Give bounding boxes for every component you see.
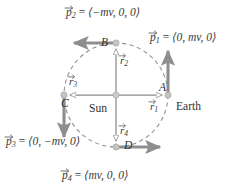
momentum-components-p2: ⟨−mv, 0, 0⟩: [88, 6, 140, 18]
momentum-label-p1: p1 = ⟨0, mv, 0⟩: [150, 32, 217, 45]
momentum-label-p3: p3 = ⟨0, −mv, 0⟩: [6, 136, 80, 149]
vector-symbol-r3: r: [69, 76, 73, 87]
vector-symbol-r4: r: [120, 125, 124, 136]
orbit-canvas: [0, 0, 232, 190]
momentum-symbol-p3: p: [6, 135, 12, 147]
radius-label-r4: r4: [120, 125, 128, 138]
node-dot-center-sun: [113, 92, 119, 98]
momentum-components-p3: ⟨0, −mv, 0⟩: [28, 135, 80, 147]
radius-subscript-r4: 4: [124, 129, 128, 138]
vector-symbol-p4: p: [62, 170, 68, 182]
node-dot-b: [113, 40, 119, 46]
radius-subscript-r1: 1: [154, 105, 158, 114]
radius-label-r1: r1: [150, 101, 158, 114]
momentum-components-p4: ⟨mv, 0, 0⟩: [84, 169, 129, 181]
vector-symbol-r1: r: [150, 101, 154, 112]
node-dot-d: [113, 144, 119, 150]
momentum-symbol-p4: p: [62, 169, 68, 181]
momentum-symbol-p2: p: [66, 6, 72, 18]
radius-label-r2: r2: [120, 55, 128, 68]
radius-symbol-r2: r: [120, 54, 124, 66]
point-label-d: D: [124, 140, 132, 152]
vector-symbol-p2: p: [66, 7, 72, 19]
radius-subscript-r2: 2: [124, 59, 128, 68]
radius-subscript-r3: 3: [73, 80, 77, 89]
momentum-symbol-p1: p: [150, 31, 156, 43]
earth-label: Earth: [176, 101, 201, 113]
radius-symbol-r1: r: [150, 100, 154, 112]
vector-symbol-r2: r: [120, 55, 124, 66]
radius-label-r3: r3: [69, 76, 77, 89]
sun-label: Sun: [89, 103, 107, 115]
momentum-label-p2: p2 = ⟨−mv, 0, 0⟩: [66, 7, 140, 20]
momentum-label-p4: p4 = ⟨mv, 0, 0⟩: [62, 170, 129, 183]
vector-symbol-p1: p: [150, 32, 156, 44]
point-label-a: A: [159, 82, 166, 94]
orbit-diagram: p2 = ⟨−mv, 0, 0⟩ p1 = ⟨0, mv, 0⟩ p3 = ⟨0…: [0, 0, 232, 190]
momentum-components-p1: ⟨0, mv, 0⟩: [172, 31, 217, 43]
radius-symbol-r3: r: [69, 75, 73, 87]
point-label-b: B: [101, 37, 108, 49]
vector-symbol-p3: p: [6, 136, 12, 148]
radius-symbol-r4: r: [120, 124, 124, 136]
point-label-c: C: [61, 98, 69, 110]
